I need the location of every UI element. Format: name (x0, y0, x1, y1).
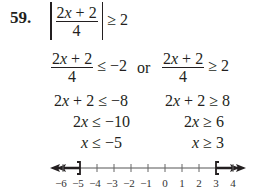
tick-label: 3 (213, 177, 219, 189)
tick-label: −1 (140, 177, 152, 189)
left-step-4: x ≤ −5 (81, 134, 122, 152)
right-step-3: 2x ≥ 6 (184, 113, 224, 131)
left-step-3: 2x ≤ −10 (73, 113, 130, 131)
right-step-4: x ≥ 3 (192, 134, 224, 152)
tick-label: −5 (72, 177, 84, 189)
tick-label: −6 (55, 177, 67, 189)
number-line (0, 158, 257, 178)
absolute-value-bar-right (102, 2, 104, 40)
left-step-2: 2x + 2 ≤ −8 (54, 92, 128, 110)
tick-label: 1 (179, 177, 185, 189)
problem-statement: 2x + 2 4 ≥ 2 (50, 2, 128, 40)
tick-label: −4 (89, 177, 101, 189)
tick-label: 4 (230, 177, 236, 189)
or-connector: or (137, 59, 150, 77)
right-step-1: 2x + 2 4 ≥ 2 (162, 50, 229, 85)
number-line-labels: −6 −5 −4 −3 −2 −1 0 1 2 3 4 (0, 177, 257, 193)
right-step-2: 2x + 2 ≥ 8 (165, 92, 230, 110)
tick-label: 2 (196, 177, 202, 189)
left-step-1: 2x + 2 4 ≤ −2 (51, 50, 127, 85)
tick-label: −3 (106, 177, 118, 189)
problem-number: 59. (10, 8, 31, 28)
tick-label: −2 (123, 177, 135, 189)
statement-relation: ≥ 2 (107, 11, 128, 28)
statement-fraction: 2x + 2 4 (56, 4, 98, 39)
absolute-value-bar-left (50, 2, 52, 40)
tick-label: 0 (162, 177, 168, 189)
